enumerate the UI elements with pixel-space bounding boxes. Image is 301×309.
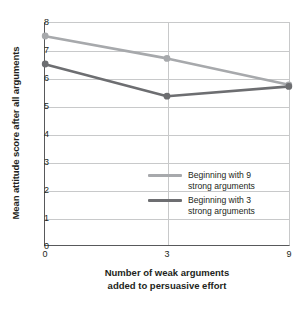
x-tick-label: 3 xyxy=(152,249,182,259)
legend-label: Beginning with 3 xyxy=(188,195,278,206)
x-axis-label: Number of weak arguments added to persua… xyxy=(44,266,290,292)
series-line-beginning-with-3 xyxy=(44,64,290,96)
legend-item-beginning-with-9: Beginning with 9 strong arguments xyxy=(148,170,278,192)
data-point xyxy=(164,93,171,100)
x-tick-label: 9 xyxy=(274,249,301,259)
chart-figure: Mean attitude score after all arguments … xyxy=(0,0,301,309)
legend-item-beginning-with-3: Beginning with 3 strong arguments xyxy=(148,195,278,217)
legend-label: strong arguments xyxy=(188,181,278,192)
legend: Beginning with 9 strong arguments Beginn… xyxy=(148,170,278,220)
legend-swatch-icon xyxy=(148,199,182,202)
x-axis-label-line1: Number of weak arguments xyxy=(44,266,290,279)
data-point xyxy=(42,33,49,40)
data-point xyxy=(285,83,292,90)
x-tick-label: 0 xyxy=(30,249,60,259)
data-point xyxy=(164,55,171,62)
legend-label: Beginning with 9 xyxy=(188,170,278,181)
x-axis-label-line2: added to persuasive effort xyxy=(44,279,290,292)
legend-label: strong arguments xyxy=(188,206,278,217)
legend-swatch-icon xyxy=(148,174,182,177)
series-markers-beginning-with-9 xyxy=(42,33,292,89)
y-axis-label: Mean attitude score after all arguments xyxy=(8,13,24,253)
series-markers-beginning-with-3 xyxy=(42,61,292,100)
data-point xyxy=(42,61,49,68)
